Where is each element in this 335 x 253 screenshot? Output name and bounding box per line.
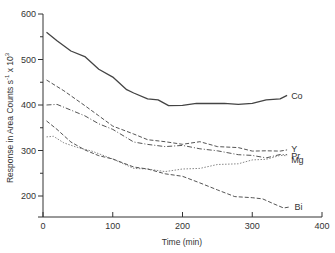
x-tick-label: 100 xyxy=(105,221,120,231)
y-ticks: 200300400500600 xyxy=(21,9,43,201)
x-tick-label: 200 xyxy=(175,221,190,231)
axes: 200300400500600 0100200300400 xyxy=(21,9,330,231)
series-line-co xyxy=(47,32,288,105)
y-tick-label: 500 xyxy=(21,55,36,65)
x-tick-label: 300 xyxy=(245,221,260,231)
x-ticks: 0100200300400 xyxy=(40,212,329,231)
series-line-mg xyxy=(47,136,288,171)
y-tick-label: 200 xyxy=(21,191,36,201)
line-chart: CoYPrMgBi 200300400500600 0100200300400 … xyxy=(0,0,335,253)
x-axis-title: Time (min) xyxy=(162,237,202,247)
x-tick-label: 0 xyxy=(40,221,45,231)
y-axis-title-main: Response in Area Counts s xyxy=(5,80,15,183)
y-tick-label: 400 xyxy=(21,100,36,110)
y-tick-label: 300 xyxy=(21,146,36,156)
series-line-y xyxy=(47,80,288,151)
y-axis-title-sup2: 3 xyxy=(4,52,10,56)
series-line-pr xyxy=(47,104,288,157)
series-label-mg: Mg xyxy=(291,155,304,165)
series-label-bi: Bi xyxy=(295,202,303,212)
series-line-bi xyxy=(47,121,291,208)
y-axis-title-mid: x 10 xyxy=(5,56,15,75)
y-tick-label: 600 xyxy=(21,9,36,19)
series-label-co: Co xyxy=(291,91,303,101)
y-axis-title: Response in Area Counts s-1 x 103 xyxy=(4,52,15,183)
x-tick-label: 400 xyxy=(314,221,329,231)
plot-area: CoYPrMgBi xyxy=(47,32,304,212)
